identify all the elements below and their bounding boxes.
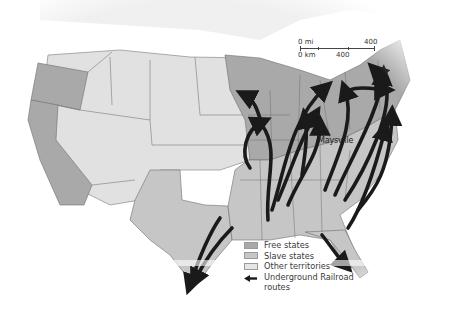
city-label-maysville: Maysville xyxy=(318,136,353,145)
scale-line xyxy=(300,48,374,49)
scale-bar: 0 mi 400 0 km 400 xyxy=(298,38,388,68)
legend-label: Free states xyxy=(264,240,309,251)
scale-mi-zero: 0 mi xyxy=(298,38,313,46)
map-legend: Free states Slave states Other territori… xyxy=(244,240,354,293)
legend-label: Other territories xyxy=(264,261,330,272)
arrow-left-icon xyxy=(244,274,258,281)
legend-item-routes: Underground Railroad xyxy=(244,272,354,283)
legend-item-slave-states: Slave states xyxy=(244,251,354,262)
us-map-graphic xyxy=(0,0,459,314)
scale-km-max: 400 xyxy=(336,51,349,59)
underground-railroad-map: 0 mi 400 0 km 400 Maysville Free states … xyxy=(0,0,459,314)
legend-label-line2: routes xyxy=(244,282,354,293)
scale-km-zero: 0 km xyxy=(298,51,316,59)
legend-item-other-territories: Other territories xyxy=(244,261,354,272)
legend-label: Slave states xyxy=(264,251,314,262)
slave-states-swatch xyxy=(244,252,258,259)
free-states-swatch xyxy=(244,242,258,249)
other-territories-swatch xyxy=(244,263,258,270)
legend-label: Underground Railroad xyxy=(264,272,354,283)
scale-mi-max: 400 xyxy=(364,38,377,46)
legend-item-free-states: Free states xyxy=(244,240,354,251)
